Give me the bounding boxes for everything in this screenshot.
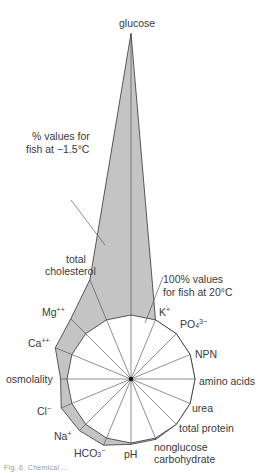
label-ref-1: 100% values <box>163 273 223 285</box>
label-carbohydrate: carbohydrate <box>154 453 215 465</box>
label-total: total <box>66 253 86 265</box>
label-nonglucose: nonglucose <box>154 441 208 453</box>
label-ph: pH <box>124 448 137 460</box>
figure-caption: Fig. 6. Chemical ... <box>4 464 68 471</box>
label-po4: PO43− <box>180 318 207 330</box>
label-cholesterol: cholesterol <box>45 265 96 277</box>
label-hco3: HCO3− <box>74 447 105 459</box>
label-ref-2: for fish at 20°C <box>163 286 233 298</box>
label-urea: urea <box>192 402 213 414</box>
label-osmolality: osmolality <box>6 373 53 385</box>
label-series-1: % values for <box>32 130 90 142</box>
label-mg: Mg++ <box>42 306 65 318</box>
center-point <box>129 377 133 381</box>
label-ca: Ca++ <box>28 337 50 349</box>
label-amino-acids: amino acids <box>199 375 255 387</box>
label-glucose: glucose <box>119 17 155 29</box>
label-total-protein: total protein <box>179 422 234 434</box>
label-na: Na+ <box>54 430 72 442</box>
radar-chart <box>0 0 270 473</box>
label-k: K+ <box>159 306 170 318</box>
label-cl: Cl− <box>37 405 51 417</box>
label-series-2: fish at −1.5°C <box>26 143 89 155</box>
label-npn: NPN <box>195 348 217 360</box>
